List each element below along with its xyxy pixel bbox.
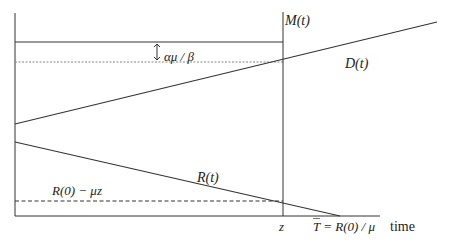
x-axis-label: time	[390, 219, 415, 234]
z-tick-label: z	[278, 219, 284, 234]
r-line	[15, 142, 340, 216]
t-tick-label: T = R(0) / μ	[313, 219, 375, 234]
t-formula: = R(0) / μ	[320, 219, 375, 234]
m-label: M(t)	[284, 13, 310, 29]
d-line	[15, 22, 437, 124]
diagram-canvas: M(t) D(t) R(t) αμ / β R(0) − μz z T = R(…	[0, 0, 457, 247]
d-label: D(t)	[344, 56, 369, 72]
dashed-label: R(0) − μz	[51, 183, 102, 198]
gap-label: αμ / β	[164, 49, 194, 64]
r-label: R(t)	[196, 170, 219, 186]
